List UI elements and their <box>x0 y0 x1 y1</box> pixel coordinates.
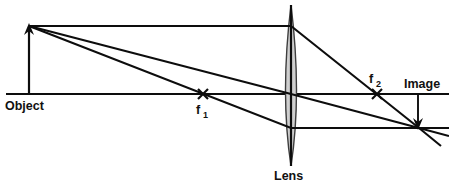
focal-point-far-label: f 2 <box>369 72 381 89</box>
center-ray-path <box>29 26 449 136</box>
ray-diagram-canvas: Object Lens Image f 1 f 2 <box>0 0 449 187</box>
f2-label-subscript: 2 <box>376 79 381 89</box>
lens-label: Lens <box>274 169 303 183</box>
center-ray <box>29 26 449 136</box>
f2-label-base: f <box>369 72 374 86</box>
optics-ray-diagram: Object Lens Image f 1 f 2 <box>0 0 449 187</box>
focal-point-near-label: f 1 <box>196 103 208 120</box>
f1-label-base: f <box>196 103 201 117</box>
image-label: Image <box>404 77 440 91</box>
object-label: Object <box>5 99 45 113</box>
object-arrow <box>24 23 34 94</box>
f1-label-subscript: 1 <box>203 110 208 120</box>
